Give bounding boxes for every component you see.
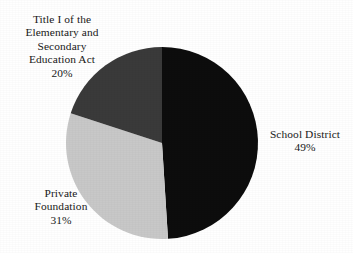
pie-label-title-i-line2: Elementary and <box>6 26 118 39</box>
pie-label-school-district: School District 49% <box>258 128 352 155</box>
pie-slice-school-district[interactable] <box>162 47 258 239</box>
pie-label-title-i-line4: Education Act <box>6 53 118 66</box>
pie-label-title-i: Title I of the Elementary and Secondary … <box>6 13 118 80</box>
pie-label-title-i-line3: Secondary <box>6 40 118 53</box>
pie-label-private-foundation-value: 31% <box>14 214 108 227</box>
pie-label-private-foundation: Private Foundation 31% <box>14 187 108 227</box>
pie-label-school-district-name: School District <box>258 128 352 141</box>
pie-label-private-foundation-line2: Foundation <box>14 200 108 213</box>
pie-label-title-i-line1: Title I of the <box>6 13 118 26</box>
pie-label-school-district-value: 49% <box>258 141 352 154</box>
pie-label-private-foundation-line1: Private <box>14 187 108 200</box>
pie-chart-figure: Title I of the Elementary and Secondary … <box>0 0 353 253</box>
pie-label-title-i-value: 20% <box>6 67 118 80</box>
